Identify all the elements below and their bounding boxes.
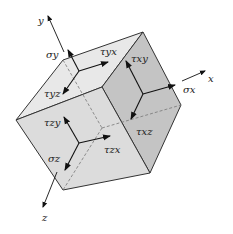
tau-xy-label: τxy (131, 53, 148, 64)
tau-zx-label: τzx (104, 144, 121, 155)
z-axis-arrow (43, 172, 57, 207)
y-axis-label: y (37, 15, 44, 26)
y-axis-arrow (48, 16, 64, 52)
stress-element-diagram: y x z σy τyx τyz τxy σx τxz τzy τzx σz (0, 0, 233, 234)
z-axis-label: z (41, 212, 48, 223)
tau-zy-label: τzy (44, 117, 61, 128)
sigma-y-label: σy (46, 49, 59, 60)
sigma-z-label: σz (48, 153, 61, 164)
x-axis-label: x (208, 73, 214, 84)
x-axis-arrow (182, 71, 205, 81)
tau-yz-label: τyz (44, 88, 61, 99)
tau-xz-label: τxz (136, 126, 153, 137)
tau-yx-label: τyx (100, 46, 117, 57)
sigma-x-label: σx (183, 84, 196, 95)
